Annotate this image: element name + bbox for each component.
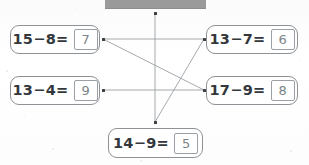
equation-expression: 13−7= (209, 32, 265, 47)
equation-content: 13−4= 9 (12, 80, 97, 101)
node-right-middle[interactable] (203, 89, 206, 92)
node-right-top[interactable] (203, 38, 206, 41)
worksheet-canvas: 15−8= 7 13−4= 9 13−7= 6 17−9= 8 (0, 0, 309, 165)
equation-box-right-middle[interactable]: 17−9= 8 (206, 76, 298, 105)
equation-box-left-top[interactable]: 15−8= 7 (10, 25, 100, 54)
equation-expression: 14−9= (113, 136, 169, 151)
equation-expression: 13−4= (12, 83, 68, 98)
equation-box-right-top[interactable]: 13−7= 6 (206, 25, 298, 54)
node-bottom[interactable] (154, 121, 157, 124)
equation-content: 14−9= 5 (113, 133, 198, 154)
equation-expression: 15−8= (12, 32, 68, 47)
equation-expression: 17−9= (209, 83, 265, 98)
equation-box-bottom-center[interactable]: 14−9= 5 (108, 128, 203, 158)
answer-slot[interactable]: 5 (174, 133, 198, 154)
node-top[interactable] (154, 12, 157, 15)
answer-value: 7 (81, 33, 89, 46)
answer-value: 8 (278, 84, 286, 97)
answer-value: 6 (278, 33, 286, 46)
answer-slot[interactable]: 6 (271, 29, 295, 50)
answer-slot[interactable]: 9 (74, 80, 98, 101)
equation-content: 13−7= 6 (209, 29, 294, 50)
equation-box-left-middle[interactable]: 13−4= 9 (10, 76, 100, 105)
equation-content: 17−9= 8 (209, 80, 294, 101)
line-bottom-to-righttop[interactable] (155, 39, 204, 122)
answer-value: 5 (182, 137, 190, 150)
answer-value: 9 (81, 84, 89, 97)
answer-slot[interactable]: 7 (74, 29, 98, 50)
equation-content: 15−8= 7 (12, 29, 97, 50)
answer-slot[interactable]: 8 (271, 80, 295, 101)
node-left-top[interactable] (102, 38, 105, 41)
node-left-middle[interactable] (102, 89, 105, 92)
